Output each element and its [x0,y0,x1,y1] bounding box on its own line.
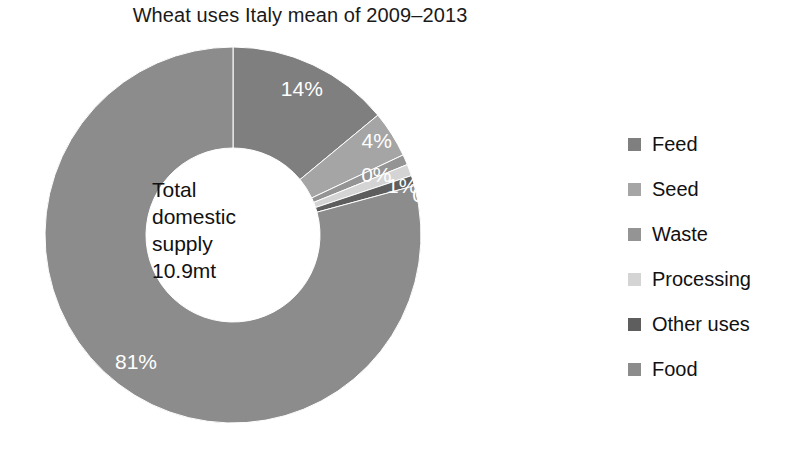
legend-swatch-icon [628,273,641,286]
legend-item[interactable]: Seed [628,167,793,212]
legend-swatch-icon [628,318,641,331]
slice-value-label: 0% [412,183,422,206]
donut-chart-figure: Wheat uses Italy mean of 2009–2013 14%4%… [0,0,797,472]
legend-swatch-icon [628,138,641,151]
legend-item[interactable]: Other uses [628,302,793,347]
legend-swatch-icon [628,228,641,241]
legend-item-label: Other uses [652,313,750,336]
legend-item-label: Food [652,358,698,381]
legend-item-label: Waste [652,223,708,246]
legend-item-label: Feed [652,133,698,156]
legend-swatch-icon [628,363,641,376]
legend-item[interactable]: Feed [628,122,793,167]
center-annotation: Total domestic supply 10.9mt [152,176,302,284]
center-line-1: Total [152,176,302,203]
chart-title: Wheat uses Italy mean of 2009–2013 [0,4,600,27]
center-line-4: 10.9mt [152,257,302,284]
center-line-2: domestic [152,203,302,230]
slice-value-label: 81% [115,350,157,373]
slice-value-label: 14% [281,77,323,100]
center-line-3: supply [152,230,302,257]
legend-item[interactable]: Waste [628,212,793,257]
legend-swatch-icon [628,183,641,196]
slice-value-label: 4% [361,129,391,152]
legend-item-label: Seed [652,178,699,201]
chart-legend: FeedSeedWasteProcessingOther usesFood [628,122,793,392]
legend-item[interactable]: Food [628,347,793,392]
legend-item-label: Processing [652,268,751,291]
legend-item[interactable]: Processing [628,257,793,302]
